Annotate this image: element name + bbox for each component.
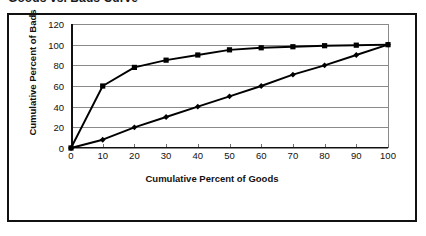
x-axis-tick-label: 20 — [119, 150, 149, 161]
x-axis-tick-label: 70 — [278, 150, 308, 161]
data-point-marker — [100, 137, 106, 143]
data-point-marker — [164, 58, 169, 63]
data-point-marker — [354, 43, 359, 48]
data-point-marker — [163, 114, 169, 120]
data-point-marker — [227, 93, 233, 99]
x-axis-tick-label: 50 — [215, 150, 245, 161]
x-axis-tick-label: 90 — [341, 150, 371, 161]
data-point-marker — [195, 104, 201, 110]
gridline — [71, 148, 388, 149]
x-axis-title: Cumulative Percent of Goods — [9, 173, 415, 184]
data-point-marker — [132, 124, 138, 130]
x-axis-tick-label: 40 — [183, 150, 213, 161]
chart-frame: Cumulative Percent of Bads Cumulative Pe… — [7, 13, 417, 222]
y-axis-tick-label: 20 — [24, 122, 64, 133]
x-axis-tick-label: 100 — [373, 150, 403, 161]
x-axis-tick-label: 60 — [246, 150, 276, 161]
y-axis-tick-label: 120 — [24, 19, 64, 30]
plot-area: 020406080100120 0102030405060708090100 — [71, 24, 388, 148]
data-point-marker — [195, 52, 200, 57]
data-point-marker — [290, 72, 296, 78]
y-axis-tick-label: 60 — [24, 81, 64, 92]
x-axis-tick — [388, 144, 389, 148]
data-point-marker — [258, 83, 264, 89]
data-point-marker — [227, 47, 232, 52]
data-point-marker — [259, 45, 264, 50]
y-axis-tick-label: 40 — [24, 101, 64, 112]
data-point-marker — [132, 65, 137, 70]
data-point-marker — [322, 43, 327, 48]
data-series-layer — [71, 24, 388, 148]
data-point-marker — [290, 44, 295, 49]
x-axis-tick-label: 80 — [310, 150, 340, 161]
data-point-marker — [100, 83, 105, 88]
data-point-marker — [353, 52, 359, 58]
x-axis-tick-label: 10 — [88, 150, 118, 161]
x-axis-tick-label: 0 — [56, 150, 86, 161]
x-axis-tick-label: 30 — [151, 150, 181, 161]
y-axis-tick-label: 80 — [24, 60, 64, 71]
data-point-marker — [322, 62, 328, 68]
y-axis-tick-label: 100 — [24, 39, 64, 50]
